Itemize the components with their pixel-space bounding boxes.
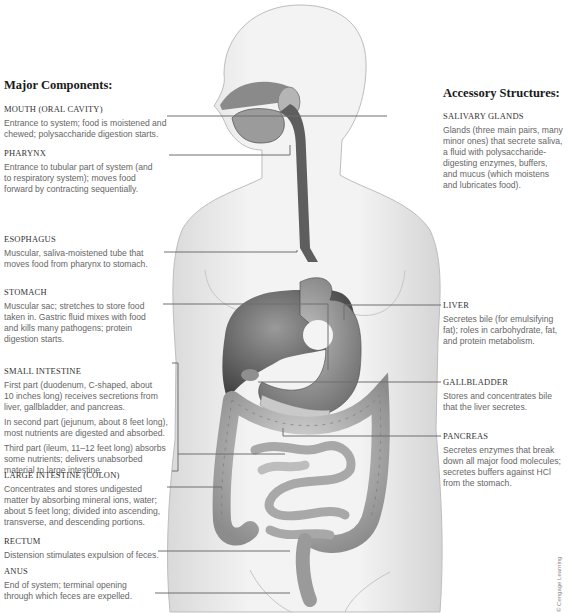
- label-liver: LIVER Secretes bile (for emulsifying fat…: [443, 300, 557, 351]
- digestive-system-diagram: Major Components: MOUTH (ORAL CAVITY) En…: [0, 0, 572, 613]
- label-small-intestine: SMALL INTESTINE First part (duodenum, C-…: [4, 366, 168, 480]
- desc-line: Entrance to system; food is moistened an…: [4, 118, 166, 128]
- label-name: STOMACH: [4, 287, 146, 297]
- desc-line: and kills many pathogens; protein: [4, 323, 132, 333]
- label-name: GALLBLADDER: [443, 377, 552, 387]
- label-name: SMALL INTESTINE: [4, 366, 168, 376]
- desc-line: Secretes enzymes that break: [443, 445, 554, 455]
- desc-line: 10 inches long) receives secretions from: [4, 391, 158, 401]
- label-salivary-glands: SALIVARY GLANDS Glands (three main pairs…: [443, 111, 563, 195]
- label-mouth: MOUTH (ORAL CAVITY) Entrance to system; …: [4, 104, 166, 199]
- label-desc: Secretes bile (for emulsifying fat); rol…: [443, 314, 557, 347]
- desc-line: forward by contracting sequentially.: [4, 184, 138, 194]
- label-name: RECTUM: [4, 536, 159, 546]
- label-rectum: RECTUM Distension stimulates expulsion o…: [4, 536, 159, 565]
- label-name: ANUS: [4, 566, 132, 576]
- desc-line: and mucus (which moistens: [443, 169, 549, 179]
- label-pancreas: PANCREAS Secretes enzymes that break dow…: [443, 431, 561, 493]
- label-desc: Muscular, saliva-moistened tube that mov…: [4, 248, 148, 270]
- major-components-title: Major Components:: [4, 78, 112, 93]
- desc-line: Glands (three main pairs, many: [443, 125, 563, 135]
- desc-line: Stores and concentrates bile: [443, 391, 552, 401]
- copyright-credit: © Cengage Learning: [556, 557, 562, 612]
- label-desc: Secretes enzymes that break down all maj…: [443, 445, 561, 489]
- desc-line: liver, gallbladder, and pancreas.: [4, 402, 125, 412]
- label-desc: Glands (three main pairs, many minor one…: [443, 125, 563, 191]
- label-name: PANCREAS: [443, 431, 561, 441]
- desc-line: Distension stimulates expulsion of feces…: [4, 550, 159, 560]
- desc-line: Secretes bile (for emulsifying: [443, 314, 553, 324]
- label-desc: End of system; terminal opening through …: [4, 580, 132, 602]
- label-desc: Muscular sac; stretches to store food ta…: [4, 301, 146, 345]
- desc-line: matter by absorbing mineral ions, water;: [4, 495, 157, 505]
- desc-line: some nutrients; delivers unabsorbed: [4, 454, 143, 464]
- label-anus: ANUS End of system; terminal opening thr…: [4, 566, 132, 606]
- label-desc: Entrance to system; food is moistened an…: [4, 118, 166, 140]
- label-name: ESOPHAGUS: [4, 234, 148, 244]
- desc-line: about 5 feet long; divided into ascendin…: [4, 506, 160, 516]
- desc-line: moves food from pharynx to stomach.: [4, 259, 148, 269]
- desc-line: minor ones) that secrete saliva,: [443, 136, 562, 146]
- desc-line: digestion starts.: [4, 334, 64, 344]
- desc-line: chewed; polysaccharide digestion starts.: [4, 129, 158, 139]
- desc-line: through which feces are expelled.: [4, 591, 132, 601]
- label-name: SALIVARY GLANDS: [443, 111, 563, 121]
- label-stomach: STOMACH Muscular sac; stretches to store…: [4, 287, 146, 349]
- label-gallbladder: GALLBLADDER Stores and concentrates bile…: [443, 377, 552, 417]
- desc-line: First part (duodenum, C-shaped, about: [4, 380, 152, 390]
- desc-line: Muscular, saliva-moistened tube that: [4, 248, 143, 258]
- rectum: [303, 540, 310, 600]
- accessory-structures-title: Accessory Structures:: [443, 86, 560, 101]
- desc-line: most nutrients are digested and absorbed…: [4, 428, 165, 438]
- desc-line: a fluid with polysaccharide-: [443, 147, 546, 157]
- desc-line: Third part (ileum, 11–12 feet long) abso…: [4, 443, 166, 453]
- desc-line: In second part (jejunum, about 8 feet lo…: [4, 417, 168, 427]
- desc-line: and lubricates food).: [443, 180, 521, 190]
- desc-line: taken in. Gastric fluid mixes with food: [4, 312, 146, 322]
- desc-line: transverse, and descending portions.: [4, 517, 145, 527]
- desc-line: fat); roles in carbohydrate, fat,: [443, 325, 557, 335]
- label-desc: Distension stimulates expulsion of feces…: [4, 550, 159, 561]
- si-paragraph-1: First part (duodenum, C-shaped, about 10…: [4, 380, 168, 413]
- desc-line: Muscular sac; stretches to store food: [4, 301, 144, 311]
- label-desc-pharynx: Entrance to tubular part of system (and …: [4, 162, 166, 195]
- label-desc: Stores and concentrates bile that the li…: [443, 391, 552, 413]
- label-large-intestine: LARGE INTESTINE (COLON) Concentrates and…: [4, 470, 160, 532]
- label-name: MOUTH (ORAL CAVITY): [4, 104, 166, 114]
- desc-line: Entrance to tubular part of system (and: [4, 162, 153, 172]
- label-name-pharynx: PHARYNX: [4, 148, 166, 158]
- label-desc: Concentrates and stores undigested matte…: [4, 484, 160, 528]
- desc-line: from the stomach.: [443, 478, 512, 488]
- label-name: LIVER: [443, 300, 557, 310]
- desc-line: digesting enzymes, buffers,: [443, 158, 547, 168]
- desc-line: down all major food molecules;: [443, 456, 561, 466]
- gallbladder: [241, 369, 259, 381]
- desc-line: and protein metabolism.: [443, 336, 535, 346]
- desc-line: End of system; terminal opening: [4, 580, 127, 590]
- desc-line: that the liver secretes.: [443, 402, 527, 412]
- label-name: LARGE INTESTINE (COLON): [4, 470, 160, 480]
- desc-line: Concentrates and stores undigested: [4, 484, 142, 494]
- desc-line: to respiratory system); moves food: [4, 173, 136, 183]
- si-paragraph-2: In second part (jejunum, about 8 feet lo…: [4, 417, 168, 439]
- desc-line: secretes buffers against HCl: [443, 467, 551, 477]
- label-esophagus: ESOPHAGUS Muscular, saliva-moistened tub…: [4, 234, 148, 274]
